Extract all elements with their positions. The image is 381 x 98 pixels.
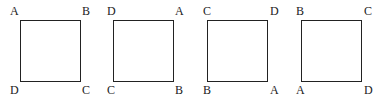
square-2 (113, 20, 174, 82)
label-bottom-right: A (270, 84, 279, 96)
label-top-right: B (82, 5, 90, 17)
label-bottom-left: D (10, 84, 19, 96)
square-4 (301, 20, 362, 82)
label-bottom-left: B (203, 84, 211, 96)
label-bottom-right: B (175, 84, 183, 96)
label-top-right: A (175, 5, 184, 17)
label-bottom-left: C (107, 84, 115, 96)
label-top-left: D (107, 5, 116, 17)
label-top-left: C (203, 5, 211, 17)
square-1 (20, 20, 81, 82)
label-bottom-right: D (364, 84, 373, 96)
label-top-left: A (10, 5, 19, 17)
label-bottom-left: A (296, 84, 305, 96)
label-top-right: D (270, 5, 279, 17)
label-top-right: C (364, 5, 372, 17)
square-3 (207, 20, 268, 82)
label-bottom-right: C (82, 84, 90, 96)
label-top-left: B (296, 5, 304, 17)
